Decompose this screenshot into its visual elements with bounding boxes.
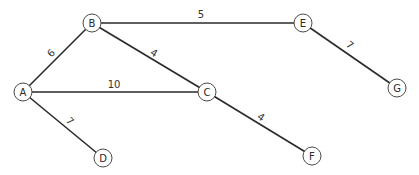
node-label-a: A	[20, 87, 27, 98]
node-f: F	[303, 147, 321, 165]
edge-c-f	[207, 92, 312, 156]
node-label-b: B	[89, 18, 96, 29]
node-b: B	[83, 14, 101, 32]
node-label-g: G	[393, 83, 401, 94]
edge-a-b	[23, 23, 92, 92]
edge-weight-a-d: 7	[64, 115, 76, 127]
nodes-layer: ABCDEFG	[14, 14, 406, 167]
node-a: A	[14, 83, 32, 101]
node-e: E	[294, 14, 312, 32]
node-label-c: C	[204, 87, 211, 98]
edge-weight-a-b: 6	[45, 47, 57, 59]
node-g: G	[388, 79, 406, 97]
node-label-e: E	[300, 18, 306, 29]
edge-a-d	[23, 92, 103, 158]
graph-diagram: 65410774 ABCDEFG	[0, 0, 419, 175]
edge-e-g	[303, 23, 397, 88]
edge-weight-e-g: 7	[344, 39, 356, 52]
edge-weight-a-c: 10	[108, 79, 121, 90]
edge-weight-b-e: 5	[198, 9, 204, 20]
edge-weight-c-f: 4	[255, 111, 266, 124]
node-d: D	[94, 149, 112, 167]
node-label-d: D	[99, 153, 107, 164]
node-c: C	[198, 83, 216, 101]
node-label-f: F	[309, 151, 315, 162]
